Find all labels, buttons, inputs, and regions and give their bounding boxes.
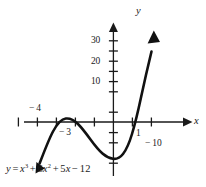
coordinate-plane <box>0 0 206 187</box>
x-tick-label-neg4: − 4 <box>29 104 41 114</box>
equation-caption: y=x3+6x2+5x−12 <box>6 163 91 174</box>
x-tick-label-neg3: − 3 <box>59 128 71 138</box>
y-axis-arrowhead <box>109 23 118 33</box>
cubic-curve-group <box>36 31 161 174</box>
x-axis-arrowhead <box>183 118 193 127</box>
equation-constant: 12 <box>80 163 91 174</box>
equation-equals: = <box>11 163 20 174</box>
y-axis <box>109 23 118 177</box>
equation-minus: − <box>71 163 80 174</box>
x-axis <box>18 118 192 127</box>
y-axis-label: y <box>136 6 141 17</box>
graph-figure: y x 30 20 10 − 4 − 3 1 − 10 y=x3+6x2+5x−… <box>0 0 206 187</box>
y-tick-label-neg10: − 10 <box>145 139 161 149</box>
y-tick-label-30: 30 <box>91 36 100 46</box>
x-axis-label: x <box>194 116 199 127</box>
curve-arrowhead-upper-right <box>148 31 160 44</box>
y-tick-label-10: 10 <box>91 77 100 87</box>
cubic-curve <box>40 52 152 164</box>
x-tick-label-1: 1 <box>136 129 141 139</box>
equation-plus-2: + <box>51 163 60 174</box>
y-tick-label-20: 20 <box>91 57 100 67</box>
equation-term3-base: x <box>66 163 71 174</box>
